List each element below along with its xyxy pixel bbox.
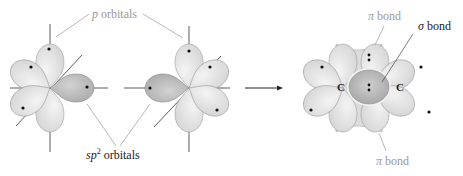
electron-dot [21, 106, 24, 109]
pi-bond-top-label: π bond [368, 10, 401, 22]
electron-dot [208, 65, 211, 68]
left-carbon-orbitals [5, 24, 108, 152]
orbital-diagram [0, 0, 463, 176]
sigma-bond-region [349, 70, 389, 104]
electron-dot [148, 86, 151, 89]
right-carbon-orbitals [124, 26, 234, 152]
electron-dot [85, 85, 88, 88]
carbon-right-label: C [396, 82, 404, 93]
reaction-arrow [245, 86, 283, 91]
pi-bond-bottom-label: π bond [376, 155, 409, 167]
electron-dot [215, 108, 218, 111]
p-orbitals-label: p orbitals [92, 8, 137, 20]
electron-dot [47, 47, 50, 50]
carbon-left-label: C [337, 82, 345, 93]
ethylene-orbitals [298, 44, 431, 132]
electron-dot [29, 65, 32, 68]
sp2-orbitals-label: sp2 orbitals [86, 148, 140, 161]
electron-dot [187, 49, 190, 52]
sigma-bond-label: σ bond [418, 20, 451, 32]
